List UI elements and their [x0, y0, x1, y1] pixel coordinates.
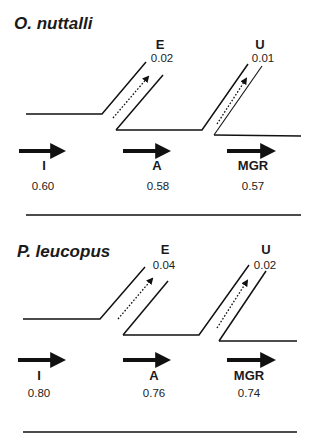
- transition-value-a: 0.58: [147, 180, 169, 192]
- flow-diagram: O. nuttalli E 0.02 U 0.01 I A MGR 0.60 0…: [0, 0, 311, 448]
- lower-channel-line: [214, 135, 301, 136]
- egress-u-inner-line: [219, 271, 266, 341]
- transition-label-i: I: [42, 158, 46, 173]
- upper-channel-line: [26, 62, 146, 114]
- transition-value-mgr: 0.74: [238, 387, 261, 399]
- transition-value-i: 0.80: [28, 387, 50, 399]
- transition-label-i: I: [37, 368, 41, 383]
- transition-label-a: A: [149, 368, 159, 383]
- egress-e-inner-line: [116, 75, 163, 130]
- exit-value-u: 0.01: [252, 52, 274, 64]
- pathway-lines: [23, 265, 297, 341]
- transition-label-mgr: MGR: [234, 368, 265, 383]
- species-title: O. nuttalli: [14, 14, 94, 33]
- transition-value-mgr: 0.57: [242, 180, 264, 192]
- panel-o-nuttalli: O. nuttalli E 0.02 U 0.01 I A MGR 0.60 0…: [14, 14, 301, 215]
- panel-p-leucopus: P. leucopus E 0.04 U 0.02 I A MGR 0.80 0…: [17, 242, 297, 432]
- egress-u-inner-line: [214, 66, 262, 135]
- exit-label-e: E: [161, 242, 170, 257]
- transition-value-i: 0.60: [32, 180, 54, 192]
- transition-label-a: A: [152, 158, 162, 173]
- upper-channel-line: [23, 267, 145, 319]
- pathway-lines: [26, 62, 301, 136]
- egress-e-dotted-arrow-icon: [118, 279, 152, 319]
- exit-label-e: E: [156, 37, 165, 52]
- egress-e-inner-line: [123, 281, 168, 335]
- exit-value-e: 0.04: [153, 259, 176, 271]
- exit-value-e: 0.02: [151, 52, 173, 64]
- transition-label-mgr: MGR: [238, 158, 269, 173]
- exit-value-u: 0.02: [254, 259, 276, 271]
- exit-label-u: U: [255, 37, 264, 52]
- transition-value-a: 0.76: [143, 387, 165, 399]
- egress-e-dotted-arrow-icon: [113, 77, 148, 118]
- exit-label-u: U: [261, 242, 270, 257]
- species-title: P. leucopus: [17, 242, 110, 261]
